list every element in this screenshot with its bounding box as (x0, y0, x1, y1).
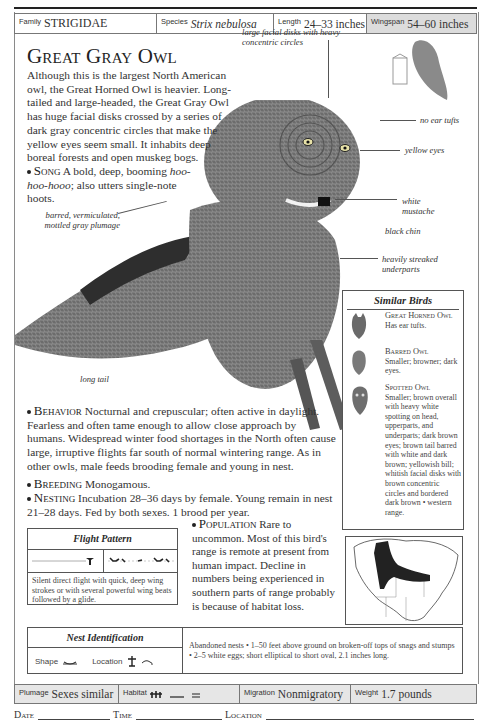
flight-pattern-icons (28, 550, 177, 573)
similar-birds-title: Similar Birds (347, 291, 459, 310)
similar-bird-name: Barred Owl (385, 347, 461, 357)
species-title: Great Gray Owl (27, 44, 177, 69)
time-label: Time (113, 709, 132, 720)
similar-bird-desc: Has ear tufts. (385, 321, 461, 331)
date-field[interactable] (38, 710, 110, 720)
family-label: Family (19, 17, 41, 26)
callout-underparts: heavily streaked underparts (382, 254, 462, 274)
intro-text: Although this is the largest North Ameri… (27, 69, 237, 165)
migration-cell: Migration Nonmigratory (240, 685, 351, 703)
location-label: Location (92, 657, 122, 666)
leader-line (335, 199, 397, 200)
location-label: Location (225, 709, 262, 720)
nest-id-left: Nest Identification Shape Location (28, 628, 183, 673)
plumage-value: Sexes similar (52, 688, 114, 700)
bullet-icon (27, 170, 31, 174)
bullet-icon (27, 410, 31, 414)
leader-line (328, 40, 329, 98)
plumage-cell: Plumage Sexes similar (15, 685, 119, 703)
breeding-heading: Breeding (34, 476, 82, 491)
water-icon (192, 694, 200, 697)
leader-line (380, 120, 416, 121)
shape-label: Shape (35, 657, 58, 666)
nest-id-desc: Abandoned nests • 1–50 feet above ground… (183, 628, 462, 673)
wingspan-cell: Wingspan 54–60 inches (367, 14, 476, 33)
similar-bird-1: Great Horned Owl Has ear tufts. (385, 311, 461, 330)
top-rule (14, 7, 477, 9)
family-cell: Family STRIGIDAE (15, 14, 157, 33)
nesting-heading: Nesting (34, 490, 75, 505)
callout-plumage: barred, vermiculated, mottled gray pluma… (30, 210, 120, 230)
habitat-cell: Habitat (119, 685, 240, 703)
nest-id-row: Shape Location (28, 648, 182, 674)
song-section: Song A bold, deep, booming hoo-hoo-hooo;… (27, 164, 202, 206)
population-text: Rare to uncommon. Most of this bird's ra… (192, 518, 335, 612)
callout-white-mustache: white mustache (402, 196, 442, 216)
great-horned-owl-thumb-icon (349, 313, 369, 339)
nest-identification-box: Nest Identification Shape Location Aband… (27, 627, 463, 674)
callout-facial-disks: large facial disks with heavy concentric… (242, 27, 352, 47)
range-map (345, 536, 463, 625)
wingspan-label: Wingspan (371, 17, 404, 26)
weight-value: 1.7 pounds (381, 688, 431, 700)
habitat-label: Habitat (123, 688, 147, 697)
leader-line (360, 150, 400, 151)
bullet-icon (27, 497, 31, 501)
leader-line (340, 258, 378, 259)
direct-flight-icon (28, 550, 104, 572)
callout-yellow-eyes: yellow eyes (405, 145, 444, 155)
callout-black-chin: black chin (385, 226, 421, 236)
flight-pattern-desc: Silent direct flight with quick, deep wi… (28, 573, 177, 608)
similar-bird-name: Spotted Owl (385, 383, 461, 393)
forest-icon (150, 691, 162, 698)
time-field[interactable] (136, 710, 222, 720)
flight-pattern-title: Flight Pattern (28, 529, 177, 550)
similar-bird-name: Great Horned Owl (385, 311, 461, 321)
nest-shape-icon (62, 656, 78, 666)
migration-label: Migration (244, 688, 275, 697)
barred-owl-thumb-icon (349, 349, 369, 375)
glide-flight-icon (104, 550, 179, 572)
behavior-heading: Behavior (34, 403, 82, 418)
observation-log: Date Time Location (14, 709, 477, 720)
weight-label: Weight (355, 688, 378, 697)
behavior-section: Behavior Nocturnal and crepuscular; ofte… (27, 404, 337, 474)
habitat-icons (150, 688, 210, 700)
flight-pattern-box: Flight Pattern Silent direct flight with… (27, 528, 178, 605)
similar-bird-desc: Smaller; brown overall with heavy white … (385, 393, 461, 518)
location-field[interactable] (266, 710, 474, 720)
length-label: Length (278, 17, 301, 26)
footer-bar: Plumage Sexes similar Habitat Migration … (14, 684, 477, 704)
plumage-label: Plumage (19, 688, 49, 697)
similar-bird-3: Spotted Owl Smaller; brown overall with … (385, 383, 461, 517)
wingspan-value: 54–60 inches (407, 18, 468, 30)
similar-birds-box: Similar Birds Great Horned Owl Has ear t… (342, 290, 464, 530)
owl-silhouette-icon (383, 38, 463, 108)
bullet-icon (27, 483, 31, 487)
date-label: Date (14, 709, 34, 720)
nesting-section: Nesting Incubation 28–36 days by female.… (27, 491, 339, 519)
nest-location-icon (126, 654, 156, 668)
species-label: Species (161, 17, 188, 26)
similar-bird-desc: Smaller; browner; dark eyes. (385, 357, 461, 376)
song-heading: Song (34, 163, 61, 178)
breeding-text: Monogamous. (82, 478, 150, 490)
spotted-owl-thumb-icon (349, 385, 371, 415)
migration-value: Nonmigratory (278, 688, 343, 700)
population-section: Population Rare to uncommon. Most of thi… (192, 517, 342, 613)
similar-bird-2: Barred Owl Smaller; browner; dark eyes. (385, 347, 461, 376)
song-text: A bold, deep, booming (61, 165, 170, 177)
family-value: STRIGIDAE (44, 16, 107, 31)
bullet-icon (192, 523, 196, 527)
callout-no-ear-tufts: no ear tufts (420, 115, 459, 125)
weight-cell: Weight 1.7 pounds (351, 685, 476, 703)
population-heading: Population (199, 516, 257, 531)
callout-long-tail: long tail (80, 374, 109, 384)
nest-identification-title: Nest Identification (28, 628, 182, 648)
